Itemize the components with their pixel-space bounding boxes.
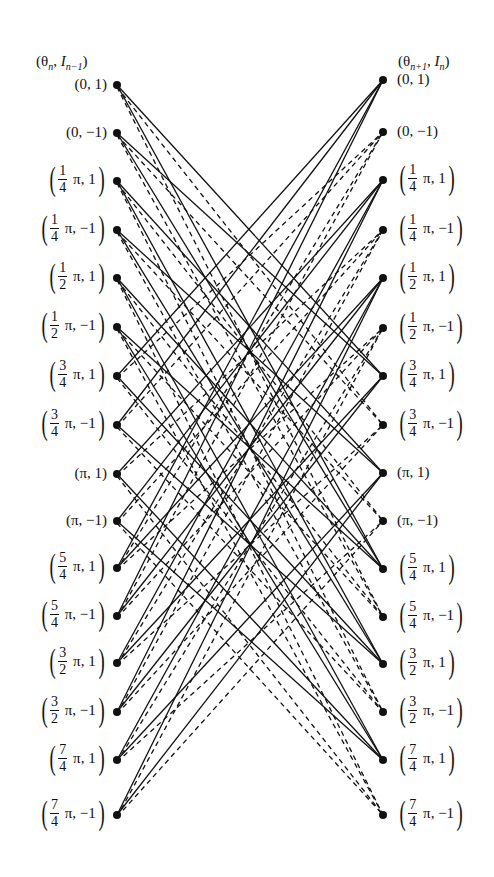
right-state-label: (0, 1): [397, 72, 430, 87]
state-node-left: [113, 811, 121, 819]
transition-dashed: [117, 232, 383, 521]
state-node-left: [113, 564, 121, 572]
left-state-label: (74 π, −1): [39, 796, 107, 830]
state-node-right: [379, 324, 387, 332]
state-node-right: [379, 565, 387, 573]
state-node-left: [113, 323, 121, 331]
left-state-label: (32 π, −1): [39, 693, 107, 727]
state-node-left: [113, 274, 121, 282]
transition-solid: [117, 80, 383, 616]
state-node-left: [113, 470, 121, 478]
right-state-label: (54 π, −1): [397, 598, 465, 632]
left-state-label: (12 π, 1): [47, 259, 107, 293]
right-state-label: (π, 1): [397, 465, 430, 480]
state-node-right: [379, 372, 387, 380]
left-state-label: (34 π, −1): [39, 406, 107, 440]
left-state-label: (14 π, −1): [39, 211, 107, 245]
right-state-label: (π, −1): [397, 513, 438, 528]
state-node-right: [379, 811, 387, 819]
transition-dashed: [117, 425, 383, 714]
state-node-right: [379, 469, 387, 477]
state-node-left: [113, 756, 121, 764]
transition-dashed: [117, 230, 383, 523]
left-state-label: (54 π, 1): [47, 549, 107, 583]
state-node-left: [113, 372, 121, 380]
right-state-label: (14 π, 1): [397, 161, 457, 195]
right-state-label: (32 π, 1): [397, 645, 457, 679]
left-state-label: (34 π, 1): [47, 357, 107, 391]
right-state-label: (54 π, 1): [397, 550, 457, 584]
state-node-right: [379, 226, 387, 234]
right-state-label: (14 π, −1): [397, 211, 465, 245]
right-state-label: (12 π, 1): [397, 259, 457, 293]
left-state-label: (0, 1): [75, 77, 108, 92]
state-node-right: [379, 128, 387, 136]
state-node-left: [113, 81, 121, 89]
state-node-right: [379, 274, 387, 282]
transition-solid: [117, 180, 383, 712]
right-state-label: (12 π, −1): [397, 309, 465, 343]
right-state-label: (0, −1): [397, 124, 438, 139]
state-node-right: [379, 76, 387, 84]
state-node-right: [379, 660, 387, 668]
state-node-left: [113, 517, 121, 525]
state-node-left: [113, 659, 121, 667]
state-node-left: [113, 226, 121, 234]
state-node-left: [113, 421, 121, 429]
transition-dashed: [117, 328, 383, 570]
left-state-label: (54 π, −1): [39, 597, 107, 631]
state-node-left: [113, 612, 121, 620]
state-node-right: [379, 708, 387, 716]
right-state-label: (74 π, 1): [397, 741, 457, 775]
right-state-label: (74 π, −1): [397, 796, 465, 830]
state-node-right: [379, 613, 387, 621]
left-state-label: (12 π, −1): [39, 308, 107, 342]
left-state-label: (14 π, 1): [47, 162, 107, 196]
left-state-label: (32 π, 1): [47, 644, 107, 678]
left-state-label: (π, 1): [74, 466, 107, 481]
transition-dashed: [117, 132, 383, 427]
state-node-left: [113, 129, 121, 137]
right-state-label: (34 π, −1): [397, 406, 465, 440]
left-state-label: (0, −1): [66, 125, 107, 140]
transition-solid: [117, 80, 383, 568]
right-state-label: (34 π, 1): [397, 357, 457, 391]
right-state-label: (32 π, −1): [397, 693, 465, 727]
left-state-label: (π, −1): [66, 513, 107, 528]
state-node-right: [379, 176, 387, 184]
left-state-label: (74 π, 1): [47, 741, 107, 775]
state-node-right: [379, 756, 387, 764]
state-node-right: [379, 517, 387, 525]
state-node-left: [113, 177, 121, 185]
state-node-right: [379, 421, 387, 429]
state-node-left: [113, 708, 121, 716]
